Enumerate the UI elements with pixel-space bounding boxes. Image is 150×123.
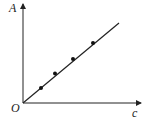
data-point <box>91 41 95 45</box>
data-point <box>71 57 75 61</box>
y-axis-label: A <box>8 1 17 15</box>
data-point <box>39 86 43 90</box>
x-axis-label: c <box>132 106 138 120</box>
data-point <box>53 72 57 76</box>
absorbance-vs-concentration-chart: A c O <box>0 0 150 123</box>
origin-label: O <box>11 101 20 115</box>
fit-line <box>23 23 119 103</box>
